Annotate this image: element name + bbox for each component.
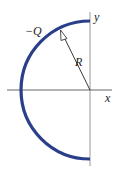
radius-label: R (75, 56, 82, 68)
semicircle-charge-diagram: −Q R x y (0, 0, 119, 173)
diagram-graphics (0, 0, 119, 173)
charge-label: −Q (25, 25, 42, 37)
y-axis-label: y (94, 11, 99, 23)
radius-arrowhead-icon (61, 30, 68, 41)
x-axis-label: x (105, 92, 110, 104)
